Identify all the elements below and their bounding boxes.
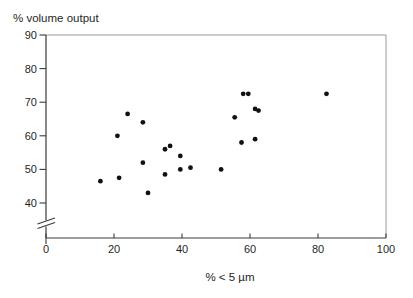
x-tick-label: 100 — [377, 243, 395, 255]
data-point — [232, 115, 237, 120]
x-tick-label: 80 — [312, 243, 324, 255]
data-points — [98, 91, 329, 195]
data-point — [146, 191, 151, 196]
x-tick-label: 20 — [108, 243, 120, 255]
data-point — [178, 154, 183, 159]
y-tick-label: 70 — [25, 96, 37, 108]
y-axis-ticks: 908070605040 — [25, 29, 46, 209]
data-point — [168, 143, 173, 148]
data-point — [125, 112, 130, 117]
x-tick-label: 60 — [244, 243, 256, 255]
plot-area: 908070605040 020406080100 — [0, 0, 413, 298]
x-tick-label: 0 — [43, 243, 49, 255]
data-point — [246, 91, 251, 96]
data-point — [141, 120, 146, 125]
data-point — [98, 179, 103, 184]
y-tick-label: 80 — [25, 63, 37, 75]
data-point — [178, 167, 183, 172]
y-axis-title: % volume output — [13, 11, 99, 25]
y-tick-label: 50 — [25, 163, 37, 175]
data-point — [188, 165, 193, 170]
scatter-plot-figure: % volume output 908070605040 02040608010… — [0, 0, 413, 298]
x-tick-label: 40 — [176, 243, 188, 255]
x-axis-label: % < 5 µm — [205, 270, 254, 284]
data-point — [115, 133, 120, 138]
data-point — [163, 147, 168, 152]
data-point — [219, 167, 224, 172]
data-point — [324, 91, 329, 96]
data-point — [239, 140, 244, 145]
y-tick-label: 90 — [25, 29, 37, 41]
data-point — [256, 108, 261, 113]
y-tick-label: 60 — [25, 130, 37, 142]
data-point — [253, 137, 258, 142]
x-axis-ticks: 020406080100 — [43, 234, 395, 256]
data-point — [241, 91, 246, 96]
data-point — [163, 172, 168, 177]
data-point — [117, 175, 122, 180]
data-point — [141, 160, 146, 165]
y-tick-label: 40 — [25, 197, 37, 209]
